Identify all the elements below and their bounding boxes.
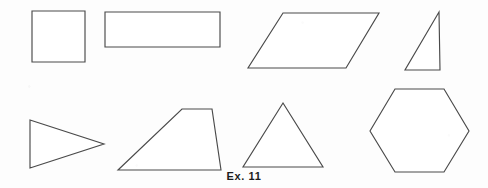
shape-rectangle [105, 12, 220, 47]
shapes-canvas [0, 0, 488, 188]
shape-square [32, 11, 85, 62]
figure-caption: Ex. 11 [0, 170, 488, 183]
shape-hexagon [370, 89, 469, 172]
figure-page: Ex. 11 [0, 0, 488, 188]
shape-trapezoid [118, 109, 221, 170]
shape-isosceles-triangle-pointing-right [30, 120, 104, 168]
shape-isosceles-triangle [243, 103, 323, 167]
shape-parallelogram [248, 13, 379, 68]
shape-right-triangle [405, 12, 440, 70]
